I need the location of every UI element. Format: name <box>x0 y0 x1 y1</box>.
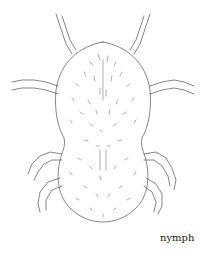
body-texture <box>70 54 136 217</box>
leg-second-right <box>150 80 194 94</box>
leg-third-right <box>144 152 176 190</box>
figure-caption: nymph <box>160 232 194 243</box>
leg-third-left <box>28 152 62 180</box>
mite-illustration: nymph <box>0 0 206 260</box>
leg-fourth-right <box>144 178 162 214</box>
leg-front-right <box>130 14 150 54</box>
leg-second-left <box>12 80 58 94</box>
mite-drawing <box>0 0 206 260</box>
leg-front-left <box>56 14 76 54</box>
